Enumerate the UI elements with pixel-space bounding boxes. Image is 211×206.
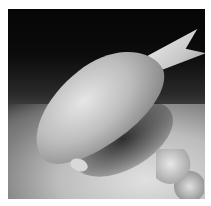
seafloor-rocks <box>156 149 204 199</box>
fish-photograph <box>8 9 205 199</box>
